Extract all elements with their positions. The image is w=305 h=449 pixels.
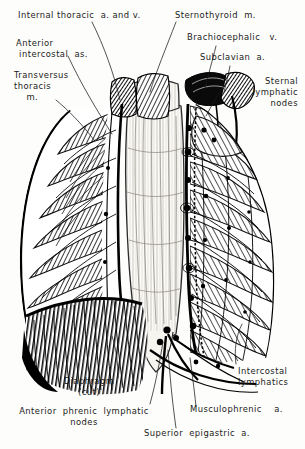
- label-anterior-phrenic-nodes: Anterior phrenic lymphatic nodes: [8, 406, 160, 428]
- label-subclavian: Subclavian a.: [200, 52, 265, 63]
- label-sternal-lymphatic-nodes: Sternal lymphatic nodes: [232, 76, 298, 110]
- label-transversus-thoracis: Transversus thoracis m.: [14, 70, 69, 104]
- anatomical-plate: Internal thoracic a. and v. Sternothyroi…: [0, 0, 305, 449]
- label-intercostal-lymphatics: Intercostal lymphatics: [238, 366, 288, 388]
- label-brachiocephalic: Brachiocephalic v.: [187, 32, 277, 43]
- label-internal-thoracic: Internal thoracic a. and v.: [18, 10, 141, 21]
- label-diaphragm: Diaphragm (cut): [50, 376, 128, 398]
- label-sternothyroid: Sternothyroid m.: [175, 10, 256, 21]
- label-anterior-intercostal: Anterior intercostal as.: [16, 38, 88, 60]
- label-musculophrenic: Musculophrenic a.: [190, 404, 283, 415]
- label-superior-epigastric: Superior epigastric a.: [144, 428, 250, 439]
